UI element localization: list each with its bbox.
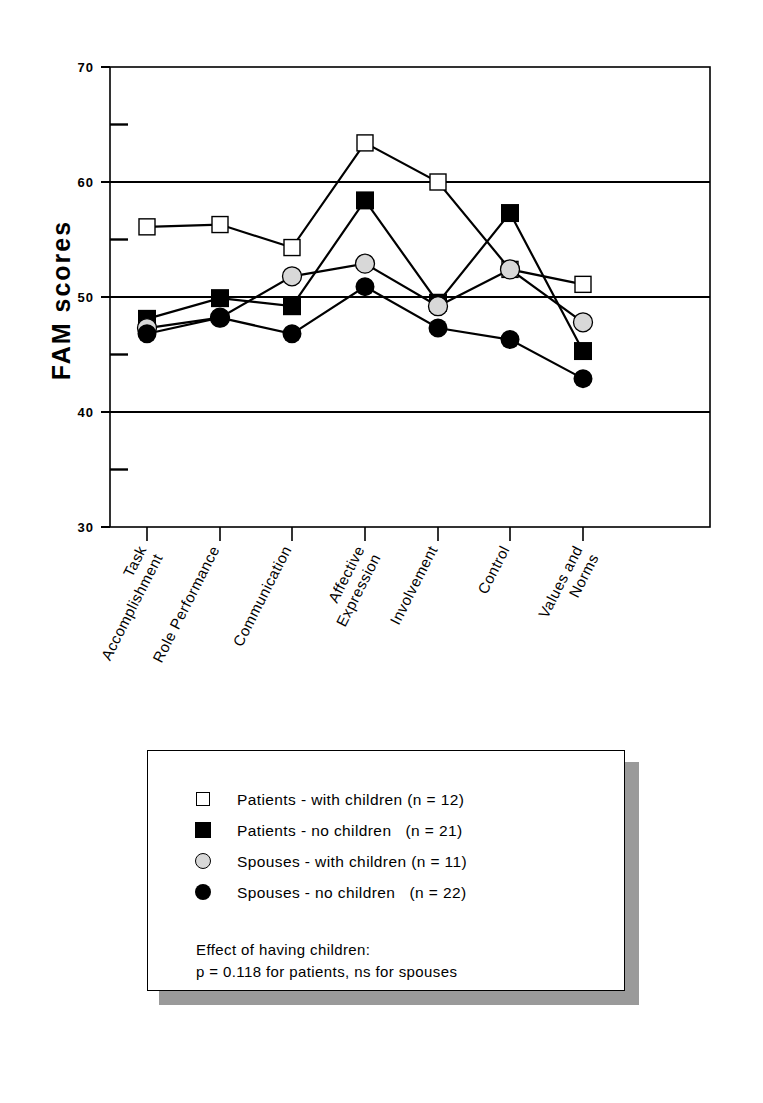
- data-point-s0-c0: [139, 219, 155, 235]
- legend-marker-open-square-icon: [193, 792, 219, 808]
- legend-item-3[interactable]: Spouses - no children (n = 22): [193, 884, 624, 902]
- line-chart: FAM scores 70 60 50 40 30: [0, 0, 763, 740]
- legend-item-0[interactable]: Patients - with children (n = 12): [193, 791, 624, 809]
- data-point-s1-c6: [574, 342, 592, 360]
- data-point-s3-c3: [356, 277, 375, 296]
- legend-item-label-3: Spouses - no children (n = 22): [237, 884, 467, 902]
- data-point-s1-c3: [356, 191, 374, 209]
- data-point-s1-c1: [211, 289, 229, 307]
- y-tick-label-70: 70: [78, 60, 94, 75]
- data-point-s0-c6: [575, 276, 591, 292]
- data-point-s2-c6: [574, 313, 593, 332]
- legend-marker-light-circle-icon: [193, 854, 219, 870]
- legend-box-wrapper: Patients - with children (n = 12)Patient…: [147, 750, 627, 1000]
- x-category-label-5: Control: [474, 543, 513, 597]
- y-axis-ticks: [101, 67, 110, 527]
- y-tick-label-50: 50: [78, 290, 94, 305]
- legend-swatch: [195, 853, 211, 869]
- data-point-s0-c3: [357, 135, 373, 151]
- y-tick-label-60: 60: [78, 175, 94, 190]
- x-category-label-3: AffectiveExpression: [317, 543, 384, 629]
- y-axis-title: FAM scores: [47, 220, 75, 380]
- data-point-s2-c4: [429, 297, 448, 316]
- x-axis-ticks: [147, 527, 583, 541]
- legend-item-label-0: Patients - with children (n = 12): [237, 791, 464, 809]
- x-category-label-5-line-0: Control: [474, 543, 513, 597]
- x-category-label-2-line-0: Communication: [229, 543, 294, 649]
- y-tick-label-40: 40: [78, 405, 94, 420]
- legend-item-label-1: Patients - no children (n = 21): [237, 822, 463, 840]
- data-point-s3-c2: [283, 324, 302, 343]
- data-point-s3-c1: [211, 308, 230, 327]
- data-point-s1-c5: [501, 204, 519, 222]
- x-category-label-4: Involvement: [386, 542, 441, 627]
- data-point-s1-c2: [283, 297, 301, 315]
- legend-items: Patients - with children (n = 12)Patient…: [148, 751, 624, 902]
- data-point-s3-c6: [574, 369, 593, 388]
- data-point-s3-c0: [138, 324, 157, 343]
- legend-marker-filled-square-icon: [193, 823, 219, 839]
- x-category-label-6: Values andNorms: [535, 543, 602, 629]
- data-point-s2-c2: [283, 267, 302, 286]
- data-point-s0-c4: [430, 174, 446, 190]
- x-axis-category-labels: TaskAccomplishmentRole PerformanceCommun…: [81, 542, 601, 665]
- legend-box: Patients - with children (n = 12)Patient…: [147, 750, 625, 991]
- legend-note-line1: Effect of having children:: [196, 941, 624, 958]
- x-category-label-4-line-0: Involvement: [386, 542, 441, 627]
- legend-swatch: [196, 792, 210, 806]
- legend-note-line2: p = 0.118 for patients, ns for spouses: [196, 963, 624, 980]
- figure-container: FAM scores 70 60 50 40 30: [0, 0, 763, 1103]
- legend-marker-filled-circle-icon: [193, 885, 219, 901]
- data-point-s0-c1: [212, 217, 228, 233]
- data-point-s3-c5: [501, 330, 520, 349]
- x-category-label-0: TaskAccomplishment: [81, 542, 165, 662]
- legend-swatch: [195, 822, 211, 838]
- data-point-s2-c5: [501, 260, 520, 279]
- legend-item-2[interactable]: Spouses - with children (n = 11): [193, 853, 624, 871]
- legend-swatch: [195, 884, 211, 900]
- legend-item-1[interactable]: Patients - no children (n = 21): [193, 822, 624, 840]
- data-point-s2-c3: [356, 254, 375, 273]
- data-point-s3-c4: [429, 319, 448, 338]
- x-category-label-2: Communication: [229, 543, 294, 649]
- data-point-s0-c2: [284, 240, 300, 256]
- legend-annotation: Effect of having children: p = 0.118 for…: [148, 915, 624, 980]
- y-tick-label-30: 30: [78, 520, 94, 535]
- legend-item-label-2: Spouses - with children (n = 11): [237, 853, 467, 871]
